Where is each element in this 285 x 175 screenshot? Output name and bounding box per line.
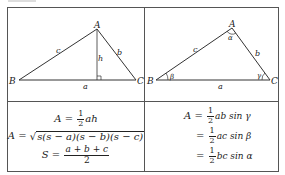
formula-ab-sin-gamma: A = 1 2 ab sin γ — [184, 106, 279, 126]
formula-rhs: bc sin α — [217, 152, 253, 161]
right-angle-mark — [97, 76, 101, 80]
left-triangle: A B C c b a h — [8, 20, 144, 91]
angle-beta-label: β — [169, 73, 174, 81]
formula-rhs: ah — [85, 114, 97, 124]
formula-bc-sin-alpha: = 1 2 bc sin α — [184, 146, 279, 166]
fraction: 1 2 — [77, 110, 84, 128]
formula-rhs: ac sin β — [217, 132, 252, 141]
altitude-h-label: h — [98, 54, 103, 63]
side-c-label: c — [56, 46, 61, 55]
formula-equals: = — [196, 131, 204, 141]
vertex-b-label: B — [8, 76, 16, 86]
formula-equals: = — [196, 151, 204, 161]
angle-alpha-label: α — [228, 34, 233, 42]
vertex-c-label: C — [137, 76, 144, 86]
fraction: 1 2 — [207, 107, 214, 125]
side-b-label-right: b — [255, 49, 260, 58]
radicand: s(s − a)(s − b)(s − c) — [36, 131, 144, 142]
formula-lhs: S = — [42, 150, 60, 160]
vertex-a-label-right: A — [228, 19, 236, 29]
vertex-c-label-right: C — [271, 76, 278, 86]
formula-heron: A = √s(s − a)(s − b)(s − c) — [8, 128, 144, 144]
right-triangle: A B C c b a α β γ — [146, 19, 278, 91]
fraction-denominator: 2 — [84, 156, 90, 165]
vertex-b-label-right: B — [146, 76, 154, 86]
formula-rhs: ab sin γ — [215, 112, 251, 121]
formula-lhs: A = — [184, 111, 203, 121]
side-c-label-right: c — [193, 45, 198, 54]
angle-gamma-arc — [262, 73, 265, 80]
square-root: √s(s − a)(s − b)(s − c) — [30, 131, 144, 142]
fraction-denominator: 2 — [208, 117, 213, 125]
fraction-numerator: a + b + c — [64, 145, 109, 155]
side-a-label-right: a — [218, 82, 223, 91]
fraction: 1 2 — [209, 147, 216, 165]
side-a-label: a — [83, 82, 88, 91]
left-formula-block: A = 1 2 ah A = √s(s − a)(s − b)(s − c) S… — [8, 110, 144, 166]
vertex-a-label: A — [93, 20, 101, 30]
fraction: a + b + c 2 — [64, 145, 109, 165]
fraction-denominator: 2 — [78, 120, 83, 128]
formula-ac-sin-beta: = 1 2 ac sin β — [184, 126, 279, 146]
fraction: 1 2 — [209, 127, 216, 145]
formula-semiperimeter: S = a + b + c 2 — [8, 144, 144, 166]
formula-lhs: A = — [54, 114, 73, 124]
side-b-label: b — [117, 48, 122, 57]
formula-area-base-height: A = 1 2 ah — [8, 110, 144, 128]
fraction-denominator: 2 — [210, 157, 215, 165]
right-formula-block: A = 1 2 ab sin γ = 1 2 ac sin β = 1 2 bc… — [184, 106, 279, 166]
angle-beta-arc — [166, 73, 168, 80]
formula-lhs: A = — [8, 131, 27, 141]
fraction-denominator: 2 — [210, 137, 215, 145]
angle-gamma-label: γ — [257, 72, 262, 80]
